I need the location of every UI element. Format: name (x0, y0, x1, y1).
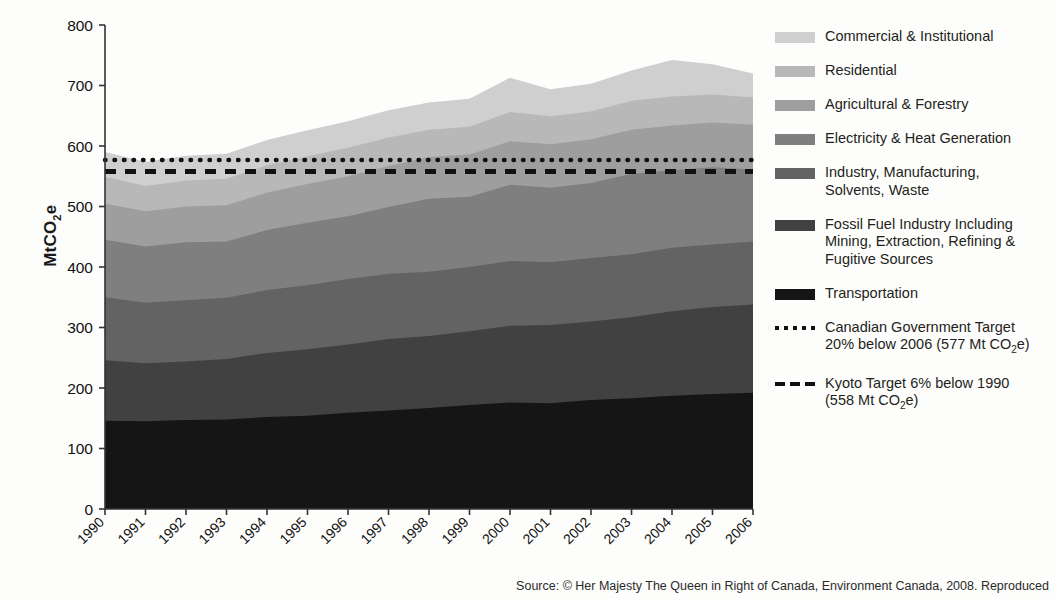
x-tick-label: 1999 (438, 514, 471, 547)
figure-root: 0100200300400500600700800199019911992199… (0, 0, 1055, 599)
legend-label: Industry, Manufacturing,Solvents, Waste (825, 164, 979, 199)
x-tick-label: 1996 (317, 514, 350, 547)
x-tick-label: 1995 (276, 514, 309, 547)
legend-label: Transportation (825, 285, 918, 303)
source-caption: Source: © Her Majesty The Queen in Right… (516, 579, 1049, 593)
legend-swatch-icon (775, 220, 815, 231)
legend-swatch-icon (775, 32, 815, 43)
legend-swatch-icon (775, 134, 815, 145)
x-tick-label: 1991 (114, 514, 147, 547)
legend-label: Residential (825, 62, 897, 80)
y-tick-label: 600 (67, 138, 93, 155)
dashed-line-icon (775, 378, 815, 390)
legend-item[interactable]: Commercial & Institutional (775, 28, 1050, 46)
dotted-line-icon (775, 322, 815, 334)
x-tick-label: 1997 (357, 514, 390, 547)
y-axis-title: MtCO2e (41, 176, 62, 296)
legend-label: Canadian Government Target20% below 2006… (825, 319, 1030, 359)
x-tick-label: 2004 (641, 514, 674, 547)
legend-item[interactable]: Kyoto Target 6% below 1990(558 Mt CO2e) (775, 375, 1050, 415)
area-bands (105, 60, 753, 509)
y-tick-label: 500 (67, 198, 93, 215)
chart-legend: Commercial & InstitutionalResidentialAgr… (775, 28, 1050, 431)
legend-swatch-icon (775, 168, 815, 179)
y-tick-label: 300 (67, 319, 93, 336)
legend-label: Fossil Fuel Industry IncludingMining, Ex… (825, 216, 1015, 269)
y-tick-label: 800 (67, 17, 93, 34)
y-tick-label: 700 (67, 77, 93, 94)
legend-label: Kyoto Target 6% below 1990(558 Mt CO2e) (825, 375, 1009, 415)
legend-label: Commercial & Institutional (825, 28, 993, 46)
legend-swatch-icon (775, 100, 815, 111)
legend-item[interactable]: Industry, Manufacturing,Solvents, Waste (775, 164, 1050, 199)
y-tick-label: 200 (67, 380, 93, 397)
legend-swatch-icon (775, 289, 815, 300)
x-tick-label: 2000 (479, 514, 512, 547)
legend-label: Agricultural & Forestry (825, 96, 968, 114)
x-tick-label: 2002 (560, 514, 593, 547)
x-tick-label: 1993 (195, 514, 228, 547)
y-tick-label: 400 (67, 259, 93, 276)
x-tick-label: 1992 (155, 514, 188, 547)
x-tick-label: 2006 (722, 514, 755, 547)
x-tick-label: 1994 (236, 514, 269, 547)
x-tick-label: 2001 (519, 514, 552, 547)
legend-item[interactable]: Electricity & Heat Generation (775, 130, 1050, 148)
x-tick-label: 1990 (74, 514, 107, 547)
x-tick-label: 2005 (681, 514, 714, 547)
legend-item[interactable]: Transportation (775, 285, 1050, 303)
x-tick-label: 2003 (600, 514, 633, 547)
y-tick-label: 0 (84, 501, 93, 518)
legend-item[interactable]: Canadian Government Target20% below 2006… (775, 319, 1050, 359)
legend-item[interactable]: Fossil Fuel Industry IncludingMining, Ex… (775, 216, 1050, 269)
legend-swatch-icon (775, 66, 815, 77)
y-tick-label: 100 (67, 440, 93, 457)
legend-label: Electricity & Heat Generation (825, 130, 1011, 148)
legend-item[interactable]: Residential (775, 62, 1050, 80)
legend-item[interactable]: Agricultural & Forestry (775, 96, 1050, 114)
x-tick-label: 1998 (398, 514, 431, 547)
